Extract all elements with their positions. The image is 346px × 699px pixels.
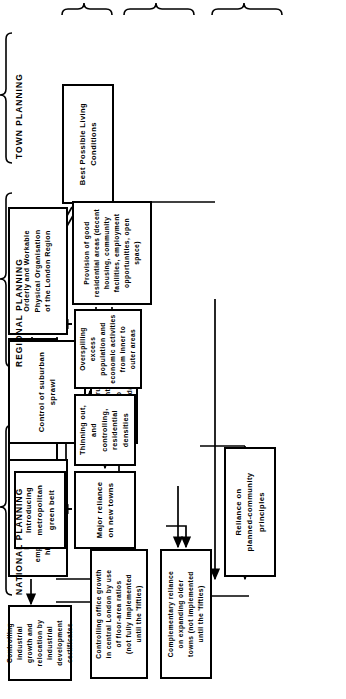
- band-title-regional: REGIONAL PLANNING: [14, 258, 24, 367]
- node-controlling-industrial-growth[interactable]: Controlling industrial growth and reloca…: [8, 605, 72, 681]
- node-major-reliance-on-new-towns[interactable]: Major reliance on new towns: [74, 471, 136, 549]
- node-complementary-reliance-older-towns[interactable]: Complementary reliance on expanding olde…: [160, 549, 212, 679]
- node-thinning-out-residential-densities[interactable]: Thinning out, and controlling, residenti…: [74, 394, 136, 466]
- diagram-canvas: NATIONAL PLANNING REGIONAL PLANNING TOWN…: [0, 0, 346, 699]
- node-controlling-office-growth[interactable]: Controlling office growth in central Lon…: [90, 549, 148, 679]
- band-title-national: NATIONAL PLANNING: [14, 488, 24, 595]
- node-overspilling-excess-population[interactable]: Overspilling excess population and econo…: [74, 309, 142, 389]
- node-best-possible-living-conditions[interactable]: Best Possible Living Conditions: [62, 84, 114, 204]
- band-title-town: TOWN PLANNING: [14, 73, 24, 159]
- node-provision-of-good-residential-areas[interactable]: Provision of good residential areas (dec…: [72, 201, 152, 305]
- node-reliance-on-planned-community-principles[interactable]: Reliance on planned-community principles: [224, 447, 276, 577]
